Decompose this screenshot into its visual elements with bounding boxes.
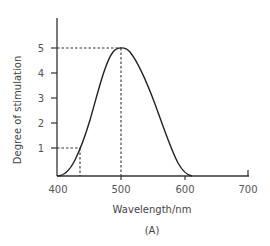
dashed-guides bbox=[57, 48, 121, 176]
x-axis-title: Wavelength/nm bbox=[113, 204, 192, 215]
y-tick-label: 3 bbox=[38, 93, 44, 104]
y-tick-label: 4 bbox=[38, 68, 44, 79]
figure-caption: (A) bbox=[145, 225, 160, 236]
stimulation-chart: 1 2 3 4 5 400 500 600 700 Wavelength/nm … bbox=[0, 0, 270, 246]
y-axis-title: Degree of stimulation bbox=[12, 56, 23, 164]
x-tick-label: 400 bbox=[48, 184, 67, 195]
x-tick-label: 700 bbox=[238, 184, 257, 195]
stimulation-curve bbox=[57, 48, 192, 176]
y-tick-label: 1 bbox=[38, 143, 44, 154]
x-tick-label: 500 bbox=[111, 184, 130, 195]
x-tick-label: 600 bbox=[175, 184, 194, 195]
y-ticks bbox=[51, 48, 57, 148]
y-tick-label: 5 bbox=[38, 43, 44, 54]
y-tick-label: 2 bbox=[38, 118, 44, 129]
